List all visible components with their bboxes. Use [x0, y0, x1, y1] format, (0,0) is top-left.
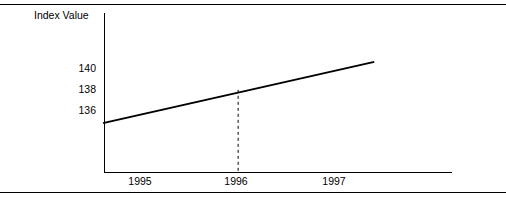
plot-area [0, 0, 506, 205]
chart-figure: Index Value 140 138 136 1995 1996 1997 [0, 0, 506, 205]
data-series-line [104, 62, 373, 123]
